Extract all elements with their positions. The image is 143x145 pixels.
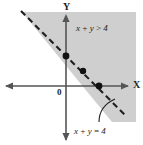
x-axis-label: X (133, 80, 140, 90)
graph-canvas (0, 0, 143, 145)
origin-label: 0 (57, 88, 62, 97)
inequality-label: x + y > 4 (76, 24, 108, 33)
point-marker (63, 53, 70, 60)
equation-label: x + y = 4 (74, 127, 106, 136)
inequality-graph-figure: Y X 0 x + y > 4 x + y = 4 (0, 0, 143, 145)
y-axis-label: Y (63, 2, 70, 12)
point-marker (80, 68, 86, 74)
point-marker (96, 83, 103, 90)
